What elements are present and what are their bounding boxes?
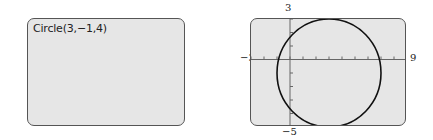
graph-plot	[251, 19, 406, 126]
home-screen: Circle(3,−1,4)	[27, 18, 185, 126]
xmax-label: 9	[410, 52, 416, 63]
graph-screen	[250, 18, 406, 126]
command-text: Circle(3,−1,4)	[33, 22, 107, 35]
graph-screen-wrapper: 3 −3 9 −5	[240, 0, 433, 140]
ymax-label: 3	[285, 2, 291, 13]
ymin-label: −5	[282, 126, 297, 137]
